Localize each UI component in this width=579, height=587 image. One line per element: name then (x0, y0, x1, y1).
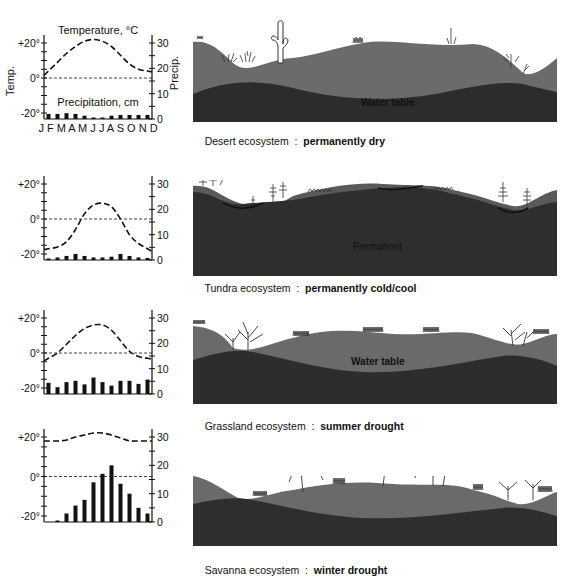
precip-bar (146, 380, 150, 394)
landscape-savanna (193, 476, 557, 546)
temperature-title: Temperature, °C (58, 24, 138, 36)
landscape-grassland: Water table (193, 320, 557, 404)
precip-bar (74, 254, 78, 260)
precip-bar (56, 114, 60, 119)
precip-bar (83, 384, 87, 394)
precip-bar (110, 465, 114, 522)
caption-grassland: Grassland ecosystem : summer drought (193, 408, 404, 444)
precip-bar (65, 113, 69, 119)
temperature-curve (44, 203, 152, 251)
precip-bar (101, 257, 105, 260)
ecosystem-description: winter drought (314, 564, 388, 576)
precip-bar (65, 514, 69, 523)
separator: : (306, 420, 321, 432)
precip-bar (128, 381, 132, 394)
precip-bar (65, 382, 69, 394)
precip-tick-label: 0 (157, 113, 163, 125)
climate-chart-grassland: +20°0°-20°3020100 (0, 272, 190, 412)
precip-bar (83, 256, 87, 260)
precip-bar (128, 115, 132, 119)
chart-group: +20°0°-20°3020100 (18, 310, 169, 400)
precip-bar (110, 257, 114, 260)
separator: : (289, 135, 304, 147)
temp-tick-label: 0° (30, 471, 40, 483)
ecosystem-name: Savanna ecosystem (205, 564, 300, 576)
precip-bar (137, 115, 141, 119)
separator: : (290, 282, 305, 294)
precip-bar (83, 500, 87, 522)
precip-bar (92, 378, 96, 394)
ecosystem-name: Desert ecosystem (205, 135, 289, 147)
caption-desert: Desert ecosystem : permanently dry (193, 123, 385, 159)
temp-tick-label: -20° (21, 248, 40, 260)
chart-group: +20°0°-20°3020100 (18, 176, 169, 266)
precip-bar (74, 381, 78, 394)
ecosystem-name: Grassland ecosystem (205, 420, 306, 432)
chart-group: +20°0°-20°3020100 (18, 429, 169, 528)
precip-tick-label: 0 (157, 254, 163, 266)
precip-bar (137, 384, 141, 394)
chart-group: +20°0°-20°3020100Temperature, °CPrecipit… (4, 24, 180, 134)
temperature-curve (44, 40, 152, 76)
climate-chart-savanna: +20°0°-20°3020100 (0, 410, 190, 550)
precip-bar (119, 115, 123, 119)
precip-tick-label: 0 (157, 516, 163, 528)
precip-bar (101, 118, 105, 120)
precip-bar (146, 258, 150, 260)
precip-bar (74, 114, 78, 119)
separator: : (299, 564, 314, 576)
precip-tick-label: 10 (157, 488, 169, 500)
precip-bar (92, 118, 96, 120)
landscape-desert: Water table (193, 18, 557, 122)
precip-bar (128, 256, 132, 260)
ecosystem-description: summer drought (320, 420, 403, 432)
precip-tick-label: 20 (157, 203, 169, 215)
temp-tick-label: +20° (18, 431, 40, 443)
temp-tick-label: 0° (30, 72, 40, 84)
climate-chart-tundra: +20°0°-20°3020100 (0, 138, 190, 278)
precip-tick-label: 10 (157, 229, 169, 241)
landscape-tundra: Permafrost (193, 180, 557, 276)
caption-tundra: Tundra ecosystem : permanently cold/cool (193, 270, 417, 306)
precip-bar (119, 381, 123, 394)
temp-tick-label: -20° (21, 107, 40, 119)
temp-tick-label: +20° (18, 312, 40, 324)
precip-tick-label: 30 (157, 37, 169, 49)
precip-tick-label: 30 (157, 312, 169, 324)
precip-tick-label: 20 (157, 337, 169, 349)
precip-tick-label: 10 (157, 363, 169, 375)
precip-bar (119, 484, 123, 522)
precip-bar (137, 508, 141, 522)
temp-tick-label: +20° (18, 37, 40, 49)
precip-bar (137, 257, 141, 260)
water-table-label: Water table (351, 356, 405, 367)
precip-bar (110, 116, 114, 119)
ecosystem-description: permanently cold/cool (305, 282, 416, 294)
precip-bar (110, 386, 114, 394)
precip-bar (92, 482, 96, 522)
temp-tick-label: -20° (21, 382, 40, 394)
precip-bar (56, 521, 60, 523)
ecosystem-name: Tundra ecosystem (204, 282, 290, 294)
precip-bar (56, 257, 60, 260)
precip-bar (128, 494, 132, 522)
temp-tick-label: +20° (18, 178, 40, 190)
precip-bar (83, 116, 87, 119)
ecosystem-description: permanently dry (303, 135, 385, 147)
precip-bar (101, 474, 105, 522)
precip-tick-label: 30 (157, 431, 169, 443)
temperature-curve (44, 324, 152, 360)
precip-bar (47, 383, 51, 394)
precip-tick-label: 20 (157, 459, 169, 471)
precip-bar (146, 514, 150, 523)
precip-bar (119, 254, 123, 260)
precip-bar (47, 114, 51, 119)
temp-axis-label: Temp. (4, 66, 16, 96)
precip-bar (65, 256, 69, 260)
precip-bar (101, 382, 105, 394)
climate-chart-desert: +20°0°-20°3020100Temperature, °CPrecipit… (0, 0, 190, 140)
month-labels: J F M A M J J A S O N D (38, 122, 157, 134)
precip-bar (146, 115, 150, 119)
precip-tick-label: 30 (157, 178, 169, 190)
water-table-label: Water table (361, 97, 415, 108)
